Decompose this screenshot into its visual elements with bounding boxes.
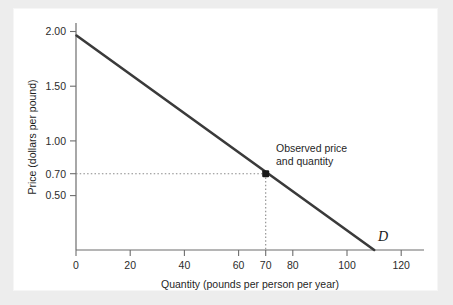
y-tick-label-1-50: 1.50 bbox=[46, 80, 67, 92]
x-tick-label-70: 70 bbox=[260, 259, 272, 271]
y-tick-label-2-00: 2.00 bbox=[46, 25, 67, 37]
observation-guides bbox=[76, 174, 266, 250]
y-tick-marks bbox=[70, 32, 76, 196]
y-tick-labels: 2.00 1.50 1.00 0.70 0.50 bbox=[46, 25, 67, 201]
figure-root: 2.00 1.50 1.00 0.70 0.50 0 20 bbox=[0, 0, 453, 305]
observed-point-annotation: Observed price and quantity bbox=[276, 142, 347, 167]
observed-point-marker bbox=[262, 170, 269, 177]
axes-group bbox=[76, 23, 424, 250]
x-axis-title: Quantity (pounds per person per year) bbox=[161, 278, 339, 290]
x-tick-label-0: 0 bbox=[73, 259, 79, 271]
demand-curve-label: D bbox=[377, 229, 388, 244]
y-tick-label-0-50: 0.50 bbox=[46, 189, 67, 201]
y-axis-title: Price (dollars per pound) bbox=[26, 80, 38, 195]
x-tick-label-20: 20 bbox=[124, 259, 136, 271]
annotation-line-1: Observed price bbox=[276, 142, 347, 154]
annotation-line-2: and quantity bbox=[276, 155, 334, 167]
x-tick-label-80: 80 bbox=[287, 259, 299, 271]
x-tick-label-40: 40 bbox=[179, 259, 191, 271]
x-tick-label-120: 120 bbox=[392, 259, 410, 271]
y-tick-label-1-00: 1.00 bbox=[46, 135, 67, 147]
demand-curve-chart: 2.00 1.50 1.00 0.70 0.50 0 20 bbox=[14, 9, 437, 290]
y-tick-label-0-70: 0.70 bbox=[46, 168, 67, 180]
x-tick-marks bbox=[76, 250, 401, 256]
x-tick-label-60: 60 bbox=[233, 259, 245, 271]
x-tick-label-100: 100 bbox=[338, 259, 356, 271]
chart-panel: 2.00 1.50 1.00 0.70 0.50 0 20 bbox=[14, 9, 437, 290]
x-tick-labels: 0 20 40 60 70 80 100 120 bbox=[73, 259, 410, 271]
